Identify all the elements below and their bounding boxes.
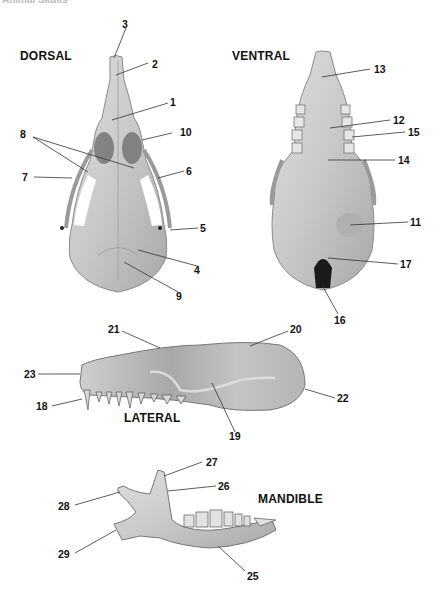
label-20: 20 [290, 323, 302, 335]
label-8: 8 [20, 128, 26, 140]
label-11: 11 [410, 216, 421, 228]
label-9: 9 [176, 290, 182, 302]
label-3: 3 [122, 18, 128, 30]
label-1: 1 [170, 96, 176, 108]
label-2: 2 [152, 58, 158, 70]
label-22: 22 [337, 392, 349, 404]
ventral-skull [272, 51, 375, 290]
mandible [114, 470, 276, 548]
label-15: 15 [408, 126, 420, 138]
label-5: 5 [200, 222, 206, 234]
label-13: 13 [374, 63, 386, 75]
view-title-mandible: MANDIBLE [258, 492, 323, 506]
dorsal-skull [60, 56, 170, 293]
label-6: 6 [186, 165, 192, 177]
label-21: 21 [108, 323, 120, 335]
view-title-dorsal: DORSAL [20, 49, 72, 63]
label-19: 19 [229, 430, 241, 442]
label-14: 14 [398, 154, 410, 166]
label-29: 29 [58, 548, 70, 560]
label-17: 17 [400, 258, 412, 270]
label-16: 16 [334, 314, 346, 326]
label-25: 25 [247, 570, 259, 582]
label-4: 4 [194, 264, 200, 276]
view-title-lateral: LATERAL [124, 411, 181, 425]
label-7: 7 [22, 171, 28, 183]
label-28: 28 [58, 500, 70, 512]
label-26: 26 [218, 480, 230, 492]
view-title-ventral: VENTRAL [232, 49, 290, 63]
label-18: 18 [36, 400, 48, 412]
label-12: 12 [393, 114, 405, 126]
lateral-skull [80, 343, 305, 411]
label-27: 27 [206, 456, 218, 468]
label-10: 10 [180, 126, 192, 138]
label-23: 23 [24, 368, 36, 380]
